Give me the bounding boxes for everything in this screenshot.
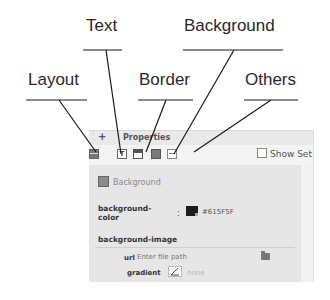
properties-panel: + Properties T Show Set Background backg… — [89, 130, 314, 282]
plus-icon[interactable]: + — [98, 131, 106, 142]
divider — [95, 247, 295, 248]
show-set-checkbox[interactable]: Show Set — [257, 148, 312, 159]
callout-layout: Layout — [28, 71, 79, 88]
url-label: url — [124, 254, 135, 262]
section-title-text: Background — [113, 178, 161, 187]
gradient-label: gradient — [127, 269, 161, 277]
folder-icon[interactable] — [261, 253, 270, 260]
layout-icon[interactable] — [89, 149, 99, 159]
others-icon[interactable] — [167, 149, 177, 159]
gradient-value: none — [187, 269, 204, 277]
url-input[interactable] — [137, 253, 217, 261]
background-color-label-line2: color — [98, 213, 151, 222]
text-icon[interactable]: T — [117, 149, 127, 159]
color-swatch[interactable] — [186, 206, 198, 216]
background-icon[interactable] — [151, 149, 161, 159]
show-set-label: Show Set — [270, 149, 312, 159]
callout-others: Others — [245, 71, 296, 88]
panel-title: Properties — [123, 133, 170, 142]
property-toolbar: T Show Set — [89, 145, 313, 165]
background-color-label-line1: background- — [98, 204, 151, 213]
callout-background: Background — [184, 17, 275, 34]
border-icon[interactable] — [133, 149, 143, 159]
background-section: Background background- color : #615F5F b… — [89, 165, 301, 282]
panel-header[interactable]: + Properties — [89, 130, 313, 146]
background-section-icon — [98, 176, 109, 187]
background-image-label: background-image — [98, 235, 177, 244]
callout-text: Text — [86, 17, 117, 34]
gradient-slash-icon — [169, 267, 181, 276]
gradient-editor-button[interactable] — [168, 266, 182, 277]
checkbox-icon[interactable] — [257, 148, 267, 158]
background-color-label: background- color — [98, 204, 151, 222]
callout-border: Border — [139, 71, 190, 88]
section-title: Background — [98, 176, 161, 187]
background-color-value[interactable]: #615F5F — [202, 208, 234, 216]
colon-separator: : — [177, 209, 180, 218]
